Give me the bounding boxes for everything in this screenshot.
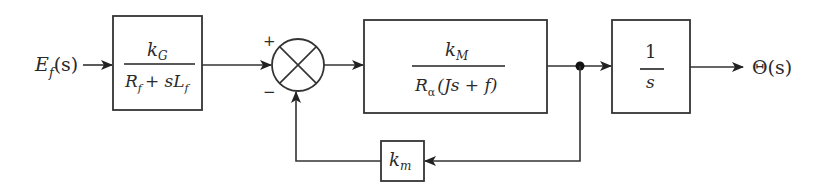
- svg-text:Ef(s): Ef(s): [34, 53, 78, 80]
- block-diagram: Ef(s) kG Rf+ sLf + − kM Rα(Js + f) 1 s Θ…: [0, 0, 821, 190]
- field-block: kG Rf+ sLf: [113, 16, 202, 110]
- svg-text:1: 1: [645, 41, 656, 62]
- summing-junction: + −: [263, 32, 324, 101]
- svg-text:s: s: [646, 72, 655, 92]
- output-signal-label: Θ(s): [752, 56, 792, 78]
- feedback-block: km: [381, 141, 424, 181]
- input-signal-label: Ef(s): [34, 53, 78, 80]
- plus-sign: +: [263, 32, 276, 50]
- integrator-block: 1 s: [612, 20, 690, 113]
- minus-sign: −: [263, 83, 276, 101]
- motor-block: kM Rα(Js + f): [364, 20, 547, 113]
